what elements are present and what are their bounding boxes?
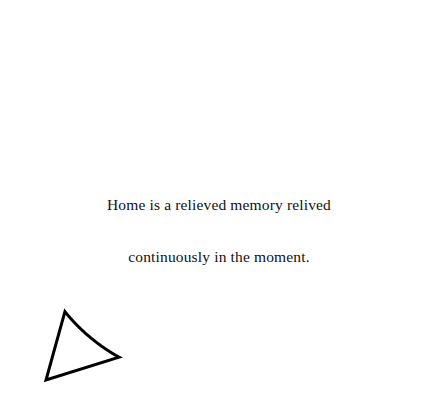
speech-bubble-canvas: Home is a relieved memory relived contin… [0, 0, 430, 411]
bubble-message-text: Home is a relieved memory relived contin… [85, 166, 353, 296]
message-line-1: Home is a relieved memory relived [85, 192, 353, 218]
message-line-2: continuously in the moment. [85, 244, 353, 270]
speech-bubble-outline-icon [46, 312, 119, 380]
